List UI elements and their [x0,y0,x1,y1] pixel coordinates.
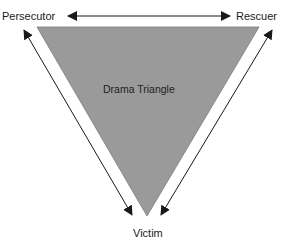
node-label-victim: Victim [133,228,163,239]
triangle-shape [37,27,259,216]
diagram-title: Drama Triangle [103,84,175,95]
node-label-persecutor: Persecutor [2,11,55,22]
node-label-rescuer: Rescuer [236,11,277,22]
drama-triangle-diagram [0,0,286,247]
